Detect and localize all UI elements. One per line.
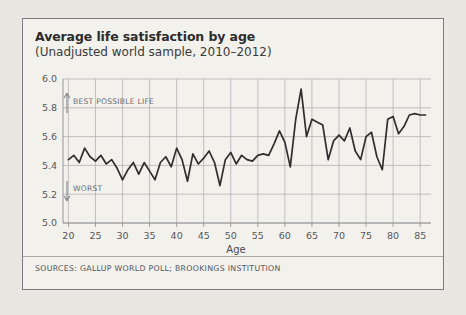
y-tick-label: 6.0 (42, 73, 57, 84)
x-axis-tick-labels: 2025303540455055606570758085 (62, 230, 426, 241)
x-tick-label: 55 (252, 230, 264, 241)
x-tick-label: 40 (171, 230, 183, 241)
y-tick-label: 5.8 (42, 102, 57, 113)
plot-annotations: BEST POSSIBLE LIFE WORST (64, 93, 154, 201)
y-axis-tick-labels: 5.05.25.45.65.86.0 (42, 73, 57, 228)
x-tick-label: 45 (198, 230, 210, 241)
best-possible-life-label: BEST POSSIBLE LIFE (73, 97, 154, 106)
y-tick-label: 5.2 (42, 189, 57, 200)
x-tick-label: 60 (279, 230, 291, 241)
title-block: Average life satisfaction by age (Unadju… (35, 29, 431, 60)
x-tick-label: 30 (116, 230, 128, 241)
chart-figure: Average life satisfaction by age (Unadju… (22, 18, 444, 290)
worst-label: WORST (73, 184, 103, 193)
x-tick-label: 35 (144, 230, 156, 241)
x-axis-title: Age (226, 244, 245, 255)
y-tick-label: 5.0 (42, 217, 57, 228)
x-tick-label: 80 (387, 230, 399, 241)
x-tick-label: 50 (225, 230, 237, 241)
arrow-up-icon (64, 93, 70, 113)
x-tick-label: 85 (414, 230, 426, 241)
x-tick-label: 70 (333, 230, 345, 241)
sources-note: SOURCES: GALLUP WORLD POLL; BROOKINGS IN… (35, 264, 281, 273)
y-tick-label: 5.6 (42, 131, 57, 142)
x-tick-label: 20 (62, 230, 74, 241)
plot-area: 5.05.25.45.65.86.0 202530354045505560657… (23, 71, 443, 256)
x-tick-label: 65 (306, 230, 318, 241)
x-tick-label: 25 (89, 230, 101, 241)
arrow-down-icon (64, 181, 70, 201)
chart-subtitle: (Unadjusted world sample, 2010–2012) (35, 45, 431, 60)
footer-divider (23, 256, 443, 257)
chart-title: Average life satisfaction by age (35, 29, 431, 44)
y-tick-label: 5.4 (42, 160, 57, 171)
x-tick-label: 75 (360, 230, 372, 241)
line-chart-svg: 5.05.25.45.65.86.0 202530354045505560657… (23, 71, 443, 256)
